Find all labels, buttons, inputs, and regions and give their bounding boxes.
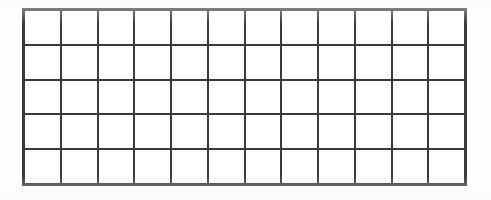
grid-cell [282,81,317,114]
grid-cell [62,11,97,44]
grid-cell [393,11,428,44]
grid-cell [135,150,170,183]
grid-cell [25,81,60,114]
grid-cell [62,46,97,79]
grid-cell [209,11,244,44]
grid-cell [62,115,97,148]
grid-cell [99,115,134,148]
grid-cell [319,46,354,79]
grid-cell [209,150,244,183]
grid-cell [172,150,207,183]
grid-cell [246,115,281,148]
grid-cell [319,150,354,183]
grid-cell [209,46,244,79]
image-canvas [0,0,491,200]
grid-cell [172,115,207,148]
grid-cell [25,150,60,183]
grid-cell [356,81,391,114]
grid-cell [25,46,60,79]
grid-cell [135,11,170,44]
grid-cell [429,150,464,183]
grid-cell [356,11,391,44]
grid-cell [209,81,244,114]
grid-cell [99,46,134,79]
grid-cell [393,46,428,79]
grid-cell [356,115,391,148]
grid-cell [429,11,464,44]
grid-cell [135,115,170,148]
grid-cell [25,115,60,148]
grid-cell [62,81,97,114]
grid-cell [99,11,134,44]
grid-cell [319,11,354,44]
grid-cell [25,11,60,44]
grid-cell [172,11,207,44]
grid-cell [209,115,244,148]
grid-cell [319,115,354,148]
grid-cell [62,150,97,183]
grid-cell [282,150,317,183]
grid-figure [22,8,467,186]
grid-cell [135,81,170,114]
grid-cell [246,11,281,44]
grid-cell [429,81,464,114]
grid-cell [172,46,207,79]
grid-cell [246,81,281,114]
grid-cell [393,115,428,148]
grid-cell [393,150,428,183]
grid-cell [282,11,317,44]
grid-cell [393,81,428,114]
grid-cell [135,46,170,79]
grid-cell [246,150,281,183]
grid-cell [246,46,281,79]
grid-cell [99,150,134,183]
grid-cell [319,81,354,114]
grid-cell [282,46,317,79]
grid-cell [429,115,464,148]
grid-cell [282,115,317,148]
grid-cell [356,150,391,183]
grid-cell [99,81,134,114]
grid-cell [356,46,391,79]
grid-cell [172,81,207,114]
grid-cell [429,46,464,79]
